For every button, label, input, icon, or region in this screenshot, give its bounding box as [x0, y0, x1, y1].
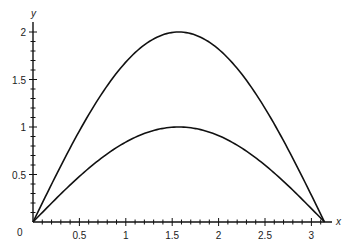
origin-label: 0 [17, 227, 23, 238]
x-axis: 0.511.522.53 [33, 218, 332, 241]
x-axis-label: x [335, 216, 342, 227]
x-tick-label: 2 [216, 230, 222, 241]
chart: 0.511.52 0.511.522.53 y x 0 [0, 0, 352, 244]
x-tick-label: 2.5 [258, 230, 272, 241]
x-tick-label: 1 [123, 230, 129, 241]
y-tick-label: 1 [20, 122, 26, 133]
x-tick-label: 0.5 [72, 230, 86, 241]
y-axis-label: y [30, 8, 37, 19]
curve-sin-x- [33, 127, 325, 222]
y-tick-label: 1.5 [12, 75, 26, 86]
y-tick-label: 0.5 [12, 170, 26, 181]
y-axis: 0.511.52 [12, 22, 37, 222]
plot-curves [33, 32, 325, 222]
x-tick-label: 3 [309, 230, 315, 241]
y-tick-label: 2 [20, 27, 26, 38]
x-tick-label: 1.5 [165, 230, 179, 241]
